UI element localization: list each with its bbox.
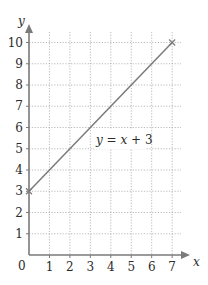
y-tick-label: 6 <box>15 121 23 135</box>
x-axis-label: x <box>193 255 200 269</box>
x-tick-label: 6 <box>148 260 156 274</box>
y-tick-label: 9 <box>15 57 23 71</box>
x-tick-label: 3 <box>87 260 95 274</box>
series-line <box>26 40 175 195</box>
y-tick-label: 3 <box>15 184 23 198</box>
y-axis-label: y <box>17 14 25 28</box>
y-tick-labels: 12345678910 <box>8 36 24 241</box>
x-tick-labels: 1234567 <box>46 260 176 274</box>
x-tick-label: 1 <box>46 260 54 274</box>
chart: 1234567 12345678910 0 x y y = x + 3 <box>0 0 208 285</box>
x-axis-arrow-icon <box>181 251 190 259</box>
equation-label: y = x + 3 <box>94 130 153 149</box>
x-tick-label: 2 <box>66 260 74 274</box>
y-tick-label: 7 <box>15 99 23 113</box>
y-tick-label: 1 <box>15 227 23 241</box>
x-tick-label: 7 <box>168 260 176 274</box>
equation-text: y = x + 3 <box>95 133 153 147</box>
y-tick-label: 8 <box>15 78 23 92</box>
line-path <box>29 43 172 192</box>
y-tick-label: 10 <box>8 36 23 50</box>
y-axis-arrow-icon <box>25 24 33 33</box>
tick-marks <box>26 43 172 259</box>
origin-label: 0 <box>18 259 26 273</box>
x-tick-label: 5 <box>127 260 135 274</box>
y-tick-label: 5 <box>15 142 23 156</box>
y-tick-label: 2 <box>15 206 23 220</box>
x-tick-label: 4 <box>107 260 115 274</box>
y-tick-label: 4 <box>15 163 23 177</box>
